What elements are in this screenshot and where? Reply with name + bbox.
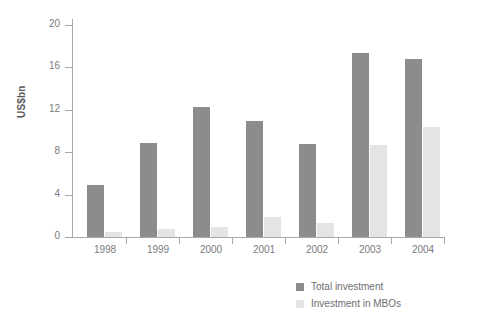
bar-total-investment: [193, 107, 210, 237]
y-tick: 0: [65, 237, 72, 238]
bar-chart: US$bn 048121620 199819992000200120022003…: [0, 0, 480, 322]
y-tick: 12: [65, 110, 72, 111]
bar-group: [186, 25, 235, 237]
legend-item[interactable]: Total investment: [296, 278, 401, 295]
x-tick: [232, 237, 233, 244]
y-tick-label: 8: [54, 145, 60, 156]
bar-investment-mbos: [370, 145, 387, 237]
y-tick-label: 20: [49, 18, 60, 29]
bar-investment-mbos: [317, 223, 334, 237]
x-tick: [285, 237, 286, 244]
legend-item[interactable]: Investment in MBOs: [296, 295, 401, 312]
legend-label: Investment in MBOs: [311, 298, 401, 309]
bar-total-investment: [299, 144, 316, 237]
x-tick-label: 2002: [289, 244, 345, 255]
bar-total-investment: [87, 185, 104, 237]
x-tick-label: 2003: [342, 244, 398, 255]
x-tick-label: 1999: [130, 244, 186, 255]
y-tick: 20: [65, 25, 72, 26]
y-tick-label: 12: [49, 103, 60, 114]
bar-investment-mbos: [423, 127, 440, 237]
bar-group: [133, 25, 182, 237]
x-tick: [179, 237, 180, 244]
y-axis-title: US$bn: [16, 38, 27, 118]
legend-swatch-icon: [296, 283, 304, 291]
bar-total-investment: [352, 53, 369, 237]
bar-investment-mbos: [105, 232, 122, 237]
bar-total-investment: [246, 121, 263, 237]
bar-total-investment: [405, 59, 422, 237]
bar-group: [80, 25, 129, 237]
bar-investment-mbos: [158, 229, 175, 237]
bar-group: [345, 25, 394, 237]
y-tick: 16: [65, 67, 72, 68]
bar-total-investment: [140, 143, 157, 237]
x-tick-label: 2004: [395, 244, 451, 255]
chart-legend: Total investmentInvestment in MBOs: [296, 278, 401, 312]
x-tick-label: 2001: [236, 244, 292, 255]
x-tick: [126, 237, 127, 244]
y-tick: 8: [65, 152, 72, 153]
y-axis-line: [72, 19, 73, 237]
legend-swatch-icon: [296, 300, 304, 308]
legend-label: Total investment: [311, 281, 383, 292]
x-tick: [444, 237, 445, 244]
y-tick-label: 16: [49, 60, 60, 71]
x-tick: [338, 237, 339, 244]
x-axis-line: [72, 237, 444, 238]
y-tick-label: 0: [54, 230, 60, 241]
x-tick-label: 2000: [183, 244, 239, 255]
y-tick: 4: [65, 195, 72, 196]
bar-group: [398, 25, 447, 237]
bar-investment-mbos: [264, 217, 281, 237]
y-tick-label: 4: [54, 188, 60, 199]
plot-area: 048121620 1998199920002001200220032004: [72, 25, 450, 237]
x-tick-label: 1998: [77, 244, 133, 255]
bar-group: [292, 25, 341, 237]
bar-investment-mbos: [211, 227, 228, 237]
bar-group: [239, 25, 288, 237]
x-tick: [391, 237, 392, 244]
